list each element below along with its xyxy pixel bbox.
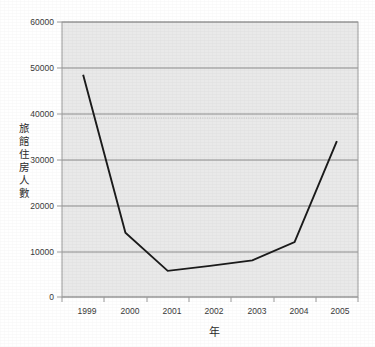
y-tick-label-20000: 20000 [30,201,54,211]
y-tick-label-50000: 50000 [30,63,54,73]
chart-canvas: 60000 50000 40000 30000 20000 10000 0 19… [0,0,375,347]
x-tick-label-2004: 2004 [290,306,309,316]
y-tick-label-0: 0 [49,292,54,302]
x-axis-title: 年 [209,325,220,339]
y-axis-title-char-4: 人 [19,174,30,186]
x-tick-label-2001: 2001 [163,306,182,316]
y-tick-label-40000: 40000 [30,109,54,119]
y-axis-title-char-2: 住 [19,148,30,160]
y-tick-label-30000: 30000 [30,155,54,165]
y-axis-title-char-0: 旅 [19,122,30,134]
hotel-occupancy-line-chart: 60000 50000 40000 30000 20000 10000 0 19… [0,0,375,347]
x-tick-label-2000: 2000 [121,306,140,316]
y-tick-label-10000: 10000 [30,247,54,257]
x-tick-label-2002: 2002 [205,306,224,316]
x-axis-tick-labels: 1999 2000 2001 2002 2003 2004 2005 [78,306,350,316]
y-axis-tick-labels: 60000 50000 40000 30000 20000 10000 0 [30,17,54,302]
x-tick-label-2005: 2005 [331,306,350,316]
x-tick-label-1999: 1999 [78,306,97,316]
x-axis-tick-marks [62,297,358,302]
y-axis-title: 旅 館 住 房 人 數 [19,122,30,199]
y-axis-title-char-3: 房 [19,161,29,173]
y-tick-label-60000: 60000 [30,17,54,27]
y-axis-tick-marks [57,22,62,297]
y-axis-title-char-1: 館 [19,135,29,147]
y-axis-title-char-5: 數 [19,187,30,199]
x-tick-label-2003: 2003 [248,306,267,316]
